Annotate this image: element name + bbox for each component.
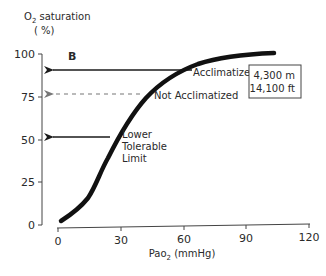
x-tick-labels: 0 30 60 90 120 — [55, 231, 320, 248]
svg-text:14,100 ft: 14,100 ft — [250, 83, 296, 94]
svg-text:50: 50 — [21, 134, 35, 147]
svg-text:Tolerable: Tolerable — [121, 141, 167, 152]
not-acclimatized-label: Not Acclimatized — [154, 90, 238, 101]
x-axis-label: Pao2 (mmHg) — [149, 248, 216, 262]
svg-text:Limit: Limit — [122, 153, 147, 164]
svg-text:4,300 m: 4,300 m — [253, 70, 295, 81]
y-tick-labels: 100 75 50 25 0 — [14, 48, 35, 232]
y-axis — [38, 54, 42, 225]
svg-text:75: 75 — [21, 91, 35, 104]
chart: O2 saturation ( %) B 100 75 50 25 0 0 30… — [0, 0, 326, 276]
svg-text:60: 60 — [177, 233, 191, 246]
svg-text:Lower: Lower — [122, 129, 153, 140]
panel-label: B — [68, 50, 76, 63]
svg-text:90: 90 — [239, 232, 253, 245]
lower-tolerable-limit-label: Lower Tolerable Limit — [121, 129, 167, 164]
svg-text:0: 0 — [28, 219, 35, 232]
y-axis-label: O2 saturation — [24, 11, 91, 25]
svg-text:100: 100 — [14, 48, 35, 61]
svg-text:0: 0 — [55, 235, 62, 248]
svg-text:25: 25 — [21, 176, 35, 189]
svg-text:120: 120 — [299, 231, 320, 244]
y-axis-unit: ( %) — [34, 25, 55, 36]
svg-text:30: 30 — [114, 234, 128, 247]
altitude-box: 4,300 m 14,100 ft — [249, 65, 301, 98]
acclimatized-label: Acclimatized — [193, 67, 257, 78]
x-axis — [57, 224, 310, 232]
